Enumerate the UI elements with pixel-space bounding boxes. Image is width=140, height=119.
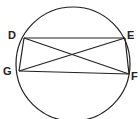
segment-ef — [125, 38, 129, 74]
label-f: F — [131, 70, 138, 82]
diagonal-eg — [19, 38, 125, 71]
segment-fg — [19, 71, 129, 74]
label-g: G — [3, 65, 12, 77]
circle — [16, 7, 130, 119]
quadrilateral-defg — [19, 38, 129, 74]
label-d: D — [8, 29, 16, 41]
label-e: E — [127, 29, 134, 41]
geometry-diagram: D E F G — [0, 0, 140, 119]
diagonal-df — [24, 38, 129, 74]
